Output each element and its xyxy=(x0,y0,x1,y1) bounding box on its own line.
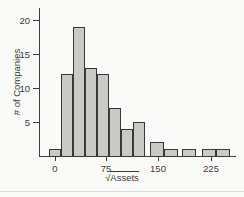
histogram-bar xyxy=(150,142,164,157)
y-tick xyxy=(33,54,39,55)
x-tick-label: 150 xyxy=(144,163,172,174)
histogram-bar xyxy=(85,68,97,157)
x-tick xyxy=(106,157,107,161)
x-tick-label: 225 xyxy=(197,163,225,174)
histogram-bar xyxy=(216,149,230,157)
histogram-bar xyxy=(49,149,61,157)
y-tick-label: 15 xyxy=(10,49,30,60)
x-axis-label: √Assets xyxy=(105,172,139,183)
histogram-bar xyxy=(202,149,216,157)
x-tick-label: 0 xyxy=(41,163,69,174)
y-tick-label: 5 xyxy=(10,117,30,128)
y-tick xyxy=(33,20,39,21)
histogram-bar xyxy=(73,27,85,157)
x-tick xyxy=(211,157,212,161)
y-tick-label: 20 xyxy=(10,15,30,26)
histogram-bar xyxy=(121,129,133,157)
page-rule xyxy=(0,191,244,192)
x-tick xyxy=(55,157,56,161)
histogram-figure: # of Companies 5101520075150225 √Assets xyxy=(0,0,244,197)
histogram-bar xyxy=(164,149,178,157)
y-axis-line xyxy=(39,8,40,157)
histogram-bar xyxy=(97,74,109,157)
histogram-bar xyxy=(61,74,73,157)
x-axis-label-text: Assets xyxy=(110,171,139,183)
histogram-bar xyxy=(182,149,196,157)
y-tick-label: 10 xyxy=(10,83,30,94)
x-tick xyxy=(158,157,159,161)
histogram-bar xyxy=(133,122,145,157)
y-tick xyxy=(33,122,39,123)
y-tick xyxy=(33,88,39,89)
histogram-bar xyxy=(109,108,121,157)
